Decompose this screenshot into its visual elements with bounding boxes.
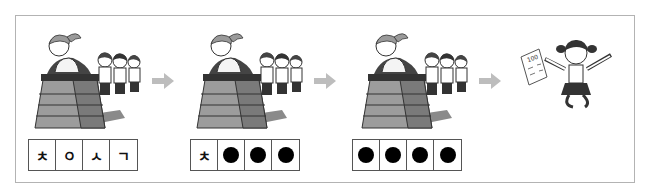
dot-icon: [385, 147, 401, 163]
letter-cell: ㅊ: [29, 140, 56, 170]
letter-cell: ㅊ: [191, 140, 218, 170]
dot-icon: [250, 147, 266, 163]
happy-girl-scene: 100: [515, 35, 625, 115]
hidden-cell: [245, 140, 272, 170]
dot-icon: [223, 147, 239, 163]
hidden-cell: [272, 140, 299, 170]
hidden-cell: [218, 140, 245, 170]
arrow-icon: [314, 73, 336, 89]
dot-icon: [412, 147, 428, 163]
letter-cell: ㄱ: [110, 140, 137, 170]
letter-boxes-stage-2: ㅊ: [190, 139, 300, 171]
letter-boxes-stage-3: [352, 139, 462, 171]
hidden-cell: [380, 140, 407, 170]
arrow-icon: [152, 73, 174, 89]
dot-icon: [440, 147, 456, 163]
vaulting-scene-2: [187, 28, 307, 133]
letter-boxes-stage-1: ㅊ ㅇ ㅅ ㄱ: [28, 139, 138, 171]
dot-icon: [358, 147, 374, 163]
hidden-cell: [353, 140, 380, 170]
hidden-cell: [407, 140, 434, 170]
hidden-cell: [434, 140, 461, 170]
arrow-icon: [479, 73, 501, 89]
letter-cell: ㅇ: [56, 140, 83, 170]
vaulting-scene-1: [25, 28, 145, 133]
vaulting-scene-3: [352, 28, 472, 133]
dot-icon: [278, 147, 294, 163]
letter-cell: ㅅ: [83, 140, 110, 170]
